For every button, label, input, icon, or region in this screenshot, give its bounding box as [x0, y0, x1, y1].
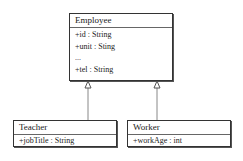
- worker-hollow-arrow-icon: [154, 81, 160, 88]
- attribute: +workAge : int: [128, 135, 230, 147]
- class-employee: Employee +id : String +unit : Sting ... …: [69, 13, 173, 81]
- class-name: Employee: [70, 14, 172, 28]
- attribute: +id : String: [70, 29, 172, 41]
- class-name: Worker: [128, 121, 230, 135]
- attribute: +jobTitle : String: [14, 135, 116, 147]
- attribute: +tel : String: [70, 64, 172, 76]
- class-name: Teacher: [14, 121, 116, 135]
- attribute-list: +id : String +unit : Sting ... +tel : St…: [70, 28, 172, 75]
- attribute: +unit : Sting: [70, 41, 172, 53]
- class-teacher: Teacher +jobTitle : String: [13, 120, 117, 147]
- teacher-hollow-arrow-icon: [85, 81, 91, 88]
- attribute-ellipsis: ...: [70, 52, 172, 64]
- class-worker: Worker +workAge : int: [127, 120, 231, 147]
